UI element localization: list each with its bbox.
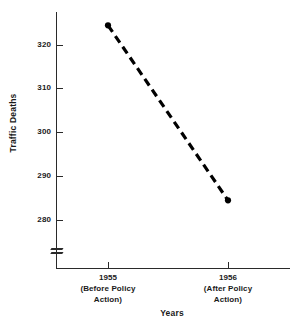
x-axis-title: Years bbox=[132, 308, 212, 318]
y-tick-label-310: 310 bbox=[21, 83, 51, 92]
x-tick-label-1956: 1956 (After Policy Action) bbox=[173, 272, 283, 305]
x-tick-label-1955-year: 1955 bbox=[53, 272, 163, 283]
x-tick-label-1955-line3: Action) bbox=[53, 294, 163, 305]
y-tick-label-300: 300 bbox=[21, 127, 51, 136]
x-tick-mark-1956 bbox=[228, 262, 229, 268]
y-tick-mark-280 bbox=[57, 220, 63, 221]
x-tick-mark-1955 bbox=[108, 262, 109, 268]
x-tick-label-1956-line2: (After Policy bbox=[173, 283, 283, 294]
data-point-1956 bbox=[225, 197, 231, 203]
y-axis-break-icon bbox=[50, 246, 64, 255]
y-tick-280: 280 bbox=[0, 220, 63, 221]
x-tick-label-1955-line2: (Before Policy bbox=[53, 283, 163, 294]
y-tick-mark-290 bbox=[57, 176, 63, 177]
y-tick-320: 320 bbox=[0, 45, 63, 46]
y-axis-title: Traffic Deaths bbox=[8, 83, 18, 163]
y-tick-label-280: 280 bbox=[21, 215, 51, 224]
chart-figure: 320 310 300 290 280 1955 (Before Policy … bbox=[0, 0, 296, 325]
y-axis-line bbox=[56, 12, 57, 269]
y-tick-mark-310 bbox=[57, 88, 63, 89]
x-axis-line bbox=[56, 268, 290, 269]
y-tick-290: 290 bbox=[0, 176, 63, 177]
series-line-traffic-deaths bbox=[108, 25, 228, 200]
x-tick-label-1956-line3: Action) bbox=[173, 294, 283, 305]
y-tick-mark-300 bbox=[57, 132, 63, 133]
y-tick-label-320: 320 bbox=[21, 40, 51, 49]
x-tick-label-1956-year: 1956 bbox=[173, 272, 283, 283]
data-point-1955 bbox=[105, 22, 111, 28]
y-tick-mark-320 bbox=[57, 45, 63, 46]
y-tick-label-290: 290 bbox=[21, 171, 51, 180]
x-tick-label-1955: 1955 (Before Policy Action) bbox=[53, 272, 163, 305]
